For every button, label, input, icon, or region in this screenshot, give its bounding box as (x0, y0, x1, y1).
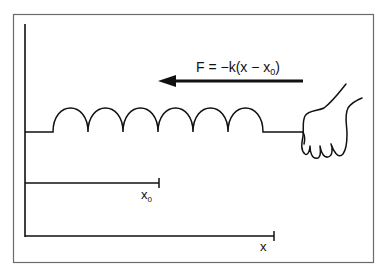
frame-border (14, 15, 374, 263)
force-equation-label: F = −k(x − x0) (196, 59, 280, 77)
displacement-ruler (25, 231, 274, 241)
spring-coil (25, 108, 303, 132)
displacement-label: x (260, 239, 267, 254)
equilibrium-ruler (25, 178, 159, 188)
spring-diagram: F = −k(x − x0) x0 x (0, 0, 387, 278)
equilibrium-label: x0 (141, 187, 153, 204)
hand-icon (302, 84, 362, 158)
force-arrow (158, 75, 303, 87)
